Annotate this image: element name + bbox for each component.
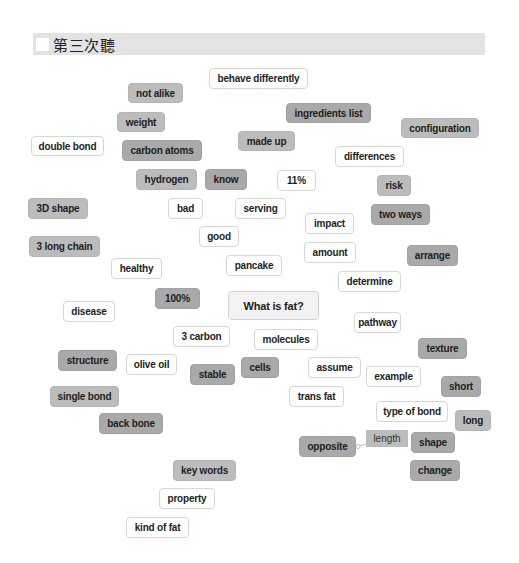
tag-molecules[interactable]: molecules: [254, 329, 318, 350]
tag-serving[interactable]: serving: [235, 198, 286, 219]
tag-configuration[interactable]: configuration: [401, 118, 479, 138]
tag-trans-fat[interactable]: trans fat: [289, 386, 344, 407]
tag-amount[interactable]: amount: [304, 242, 356, 263]
tag-pancake[interactable]: pancake: [226, 255, 282, 276]
tag-example[interactable]: example: [366, 366, 421, 387]
tag-impact[interactable]: impact: [305, 213, 354, 234]
tag-disease[interactable]: disease: [63, 301, 115, 322]
tag-arrange[interactable]: arrange: [407, 245, 458, 266]
connector-label-length[interactable]: length: [366, 430, 408, 447]
tag-weight[interactable]: weight: [117, 112, 165, 132]
tag-11-percent[interactable]: 11%: [277, 170, 316, 191]
tag-double-bond[interactable]: double bond: [31, 136, 104, 156]
tag-stable[interactable]: stable: [190, 364, 235, 385]
tag-not-alike[interactable]: not alike: [128, 83, 183, 103]
tag-structure[interactable]: structure: [58, 350, 117, 371]
tag-hydrogen[interactable]: hydrogen: [136, 169, 197, 190]
tag-determine[interactable]: determine: [338, 271, 401, 292]
tag-behave-differently[interactable]: behave differently: [209, 68, 308, 89]
tag-pathway[interactable]: pathway: [354, 312, 401, 333]
tag-differences[interactable]: differences: [335, 146, 404, 167]
central-topic-label: What is fat?: [244, 300, 304, 312]
tag-3d-shape[interactable]: 3D shape: [28, 198, 88, 219]
tag-3-carbon[interactable]: 3 carbon: [173, 326, 230, 347]
tag-made-up[interactable]: made up: [238, 131, 295, 151]
tag-carbon-atoms[interactable]: carbon atoms: [122, 140, 202, 161]
tag-healthy[interactable]: healthy: [111, 258, 162, 279]
tag-ingredients-list[interactable]: ingredients list: [286, 103, 371, 123]
tag-risk[interactable]: risk: [377, 175, 411, 196]
tag-change[interactable]: change: [410, 460, 460, 481]
tag-opposite[interactable]: opposite: [299, 436, 356, 457]
tag-two-ways[interactable]: two ways: [371, 204, 430, 225]
tag-texture[interactable]: texture: [418, 338, 467, 359]
tag-long[interactable]: long: [455, 410, 491, 431]
tag-kind-of-fat[interactable]: kind of fat: [126, 517, 189, 538]
central-topic[interactable]: What is fat?: [228, 291, 319, 320]
tag-single-bond[interactable]: single bond: [50, 386, 119, 407]
tag-shape[interactable]: shape: [411, 432, 455, 453]
tag-back-bone[interactable]: back bone: [99, 413, 163, 434]
tag-know[interactable]: know: [205, 169, 247, 190]
tag-key-words[interactable]: key words: [173, 460, 236, 481]
tag-3-long-chain[interactable]: 3 long chain: [29, 236, 100, 257]
tag-property[interactable]: property: [159, 488, 215, 509]
tag-100-percent[interactable]: 100%: [155, 288, 200, 309]
tag-bad[interactable]: bad: [168, 198, 203, 219]
tag-short[interactable]: short: [441, 376, 481, 397]
mind-map-canvas: What is fat? behave differently not alik…: [0, 0, 519, 563]
tag-good[interactable]: good: [199, 226, 239, 247]
tag-olive-oil[interactable]: olive oil: [126, 354, 177, 375]
tag-cells[interactable]: cells: [241, 357, 279, 378]
tag-type-of-bond[interactable]: type of bond: [376, 401, 448, 422]
tag-assume[interactable]: assume: [308, 357, 361, 378]
